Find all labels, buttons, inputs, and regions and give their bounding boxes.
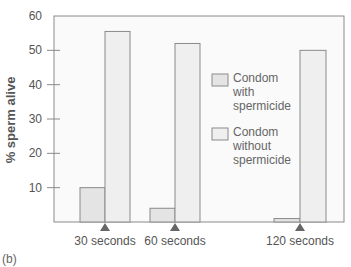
legend-label: with	[232, 85, 254, 99]
triangle-marker-icon	[100, 223, 110, 231]
x-category-label: 30 seconds	[74, 234, 135, 248]
triangle-marker-icon	[295, 223, 305, 231]
legend-label: without	[232, 139, 272, 153]
x-category-label: 120 seconds	[266, 234, 334, 248]
legend-label: Condom	[233, 125, 278, 139]
bar-with-spermicide	[150, 208, 175, 222]
legend-swatch	[212, 128, 228, 140]
legend-label: Condom	[233, 71, 278, 85]
x-axis: 30 seconds60 seconds120 seconds	[74, 223, 334, 248]
bar-with-spermicide	[80, 188, 105, 222]
y-tick-label: 30	[29, 112, 43, 126]
y-axis-title: % sperm alive	[3, 77, 18, 164]
legend-label: spermicide	[233, 99, 291, 113]
bar-without-spermicide	[175, 43, 200, 222]
bar-chart: 102030405060 30 seconds60 seconds120 sec…	[0, 0, 351, 267]
y-tick-label: 10	[29, 181, 43, 195]
legend-swatch	[212, 74, 228, 86]
y-tick-label: 20	[29, 146, 43, 160]
y-tick-label: 50	[29, 43, 43, 57]
bar-without-spermicide	[300, 50, 326, 222]
bar-without-spermicide	[105, 31, 130, 222]
legend-label: spermicide	[233, 153, 291, 167]
triangle-marker-icon	[170, 223, 180, 231]
y-tick-label: 60	[29, 9, 43, 23]
bar-with-spermicide	[274, 219, 300, 222]
panel-label: (b)	[2, 252, 17, 266]
x-category-label: 60 seconds	[144, 234, 205, 248]
y-tick-label: 40	[29, 78, 43, 92]
